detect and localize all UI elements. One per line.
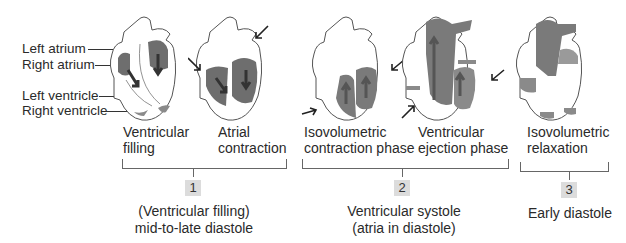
caption-isovolumetric-contraction-line2: contraction phase	[304, 140, 415, 156]
group-1-line1: (Ventricular filling)	[134, 203, 254, 220]
group-3-line1: Early diastole	[520, 205, 620, 222]
caption-ventricular-ejection-line2: ejection phase	[418, 140, 508, 156]
badge-group-1: 1	[185, 180, 201, 196]
badge-group-2: 2	[394, 180, 410, 196]
group-1-line2: mid-to-late diastole	[134, 220, 254, 237]
heart-isovolumetric-relaxation-illustration	[514, 14, 594, 122]
group-2-line1: Ventricular systole	[344, 203, 464, 220]
bracket-group-1	[122, 159, 287, 169]
caption-isovolumetric-relaxation-line1: Isovolumetric	[527, 124, 609, 140]
heart-isovolumetric-contraction-illustration	[300, 14, 410, 122]
label-left-atrium: Left atrium	[22, 41, 86, 57]
caption-ventricular-filling-line1: Ventricular	[123, 124, 189, 140]
bracket-stem	[193, 169, 194, 177]
bracket-group-3	[520, 162, 609, 172]
badge-group-3: 3	[561, 182, 577, 198]
caption-atrial-contraction-line2: contraction	[218, 140, 286, 156]
bracket-group-2	[302, 159, 509, 169]
caption-isovolumetric-relaxation-line2: relaxation	[527, 140, 588, 156]
bracket-stem	[402, 169, 403, 177]
label-right-ventricle: Right ventricle	[22, 103, 108, 119]
group-2-line2: (atria in diastole)	[344, 220, 464, 237]
caption-ventricular-filling-line2: filling	[123, 140, 155, 156]
caption-atrial-contraction-line1: Atrial	[218, 124, 250, 140]
bracket-stem	[569, 172, 570, 180]
heart-ventricular-ejection-illustration	[398, 10, 508, 122]
label-left-ventricle: Left ventricle	[22, 88, 99, 104]
heart-ventricular-filling-illustration	[108, 14, 178, 122]
heart-atrial-contraction-illustration	[188, 14, 278, 122]
label-right-atrium: Right atrium	[22, 57, 95, 73]
caption-ventricular-ejection-line1: Ventricular	[418, 124, 484, 140]
caption-isovolumetric-contraction-line1: Isovolumetric	[304, 124, 386, 140]
